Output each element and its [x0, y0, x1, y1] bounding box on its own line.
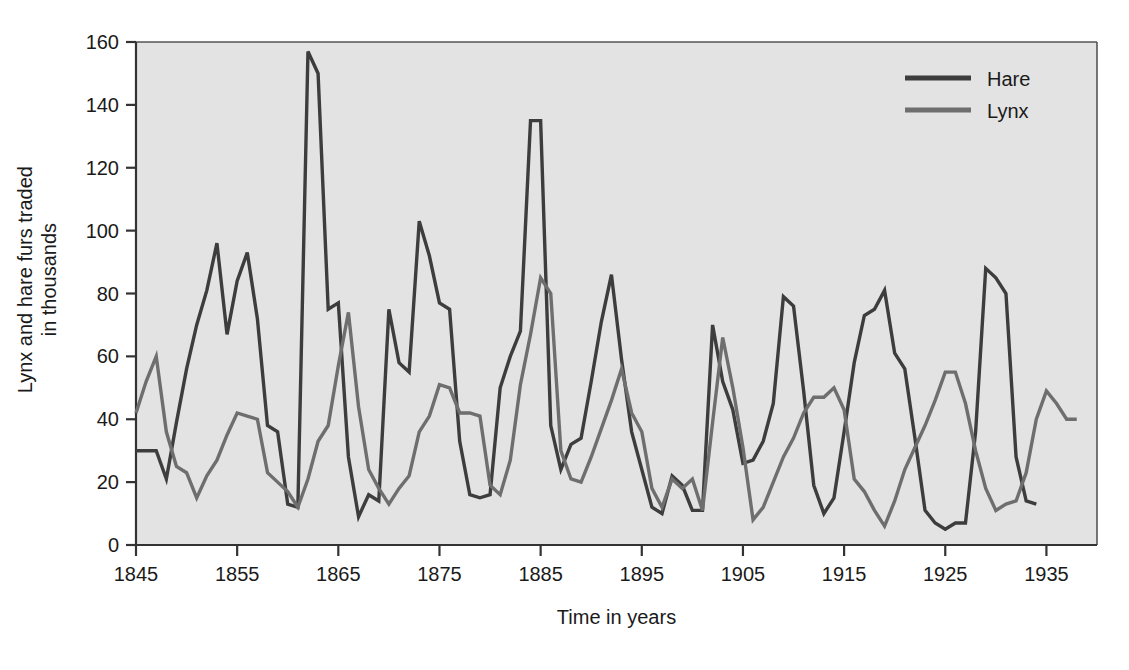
y-tick-label: 60 — [97, 345, 119, 367]
lynx-hare-line-chart: Lynx and hare furs traded in thousands T… — [0, 0, 1129, 670]
y-tick-label: 40 — [97, 408, 119, 430]
legend-label-hare: Hare — [987, 68, 1030, 90]
x-tick-label: 1865 — [316, 563, 361, 585]
plot-area: 0204060801001201401601845185518651875188… — [0, 0, 1129, 670]
x-tick-label: 1935 — [1024, 563, 1069, 585]
y-tick-label: 100 — [86, 220, 119, 242]
y-tick-label: 80 — [97, 283, 119, 305]
x-tick-label: 1875 — [417, 563, 462, 585]
x-tick-label: 1895 — [620, 563, 665, 585]
y-tick-label: 20 — [97, 471, 119, 493]
y-tick-label: 0 — [108, 534, 119, 556]
y-tick-label: 140 — [86, 94, 119, 116]
x-tick-label: 1905 — [721, 563, 766, 585]
y-tick-label: 120 — [86, 157, 119, 179]
x-tick-label: 1915 — [822, 563, 867, 585]
plot-background — [136, 42, 1097, 545]
x-tick-label: 1855 — [215, 563, 260, 585]
x-tick-label: 1845 — [114, 563, 159, 585]
y-tick-label: 160 — [86, 31, 119, 53]
x-tick-label: 1925 — [923, 563, 968, 585]
x-tick-label: 1885 — [518, 563, 563, 585]
legend-label-lynx: Lynx — [987, 100, 1029, 122]
